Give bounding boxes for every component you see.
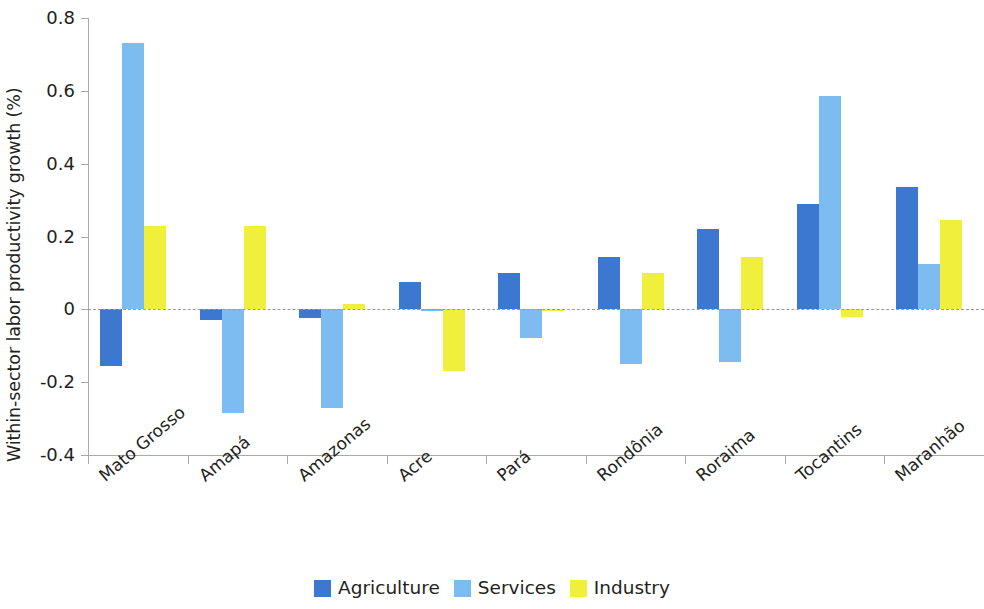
y-tick-label: -0.2 (40, 370, 75, 394)
zero-reference-line (88, 309, 984, 310)
bar (620, 309, 642, 364)
bar (918, 264, 940, 310)
legend: AgricultureServicesIndustry (0, 577, 984, 599)
y-tick: -0.2 (81, 382, 88, 383)
y-tick: 0 (81, 309, 88, 310)
legend-item[interactable]: Services (454, 577, 556, 599)
bar (719, 309, 741, 362)
bar-chart: Within-sector labor productivity growth … (0, 0, 984, 609)
y-tick-label: 0.2 (46, 225, 75, 249)
y-tick: 0.2 (81, 237, 88, 238)
bar (299, 309, 321, 318)
bar (399, 282, 421, 309)
x-tick (88, 455, 89, 464)
bar (520, 309, 542, 338)
legend-swatch-icon (570, 580, 587, 597)
bar (797, 204, 819, 310)
bar (200, 309, 222, 320)
legend-item[interactable]: Agriculture (314, 577, 440, 599)
legend-swatch-icon (454, 580, 471, 597)
y-tick: 0.6 (81, 91, 88, 92)
bar (741, 257, 763, 310)
plot-area: 0.80.60.40.20-0.2-0.4 (88, 18, 984, 457)
bar (443, 309, 465, 371)
y-tick-label: 0.4 (46, 152, 75, 176)
x-tick (884, 455, 885, 464)
x-tick (586, 455, 587, 464)
bar (222, 309, 244, 413)
y-tick-label: -0.4 (40, 443, 75, 467)
legend-swatch-icon (314, 580, 331, 597)
y-tick-label: 0.8 (46, 6, 75, 30)
bar (642, 273, 664, 309)
y-tick-label: 0 (64, 297, 75, 321)
x-tick (785, 455, 786, 464)
y-tick: 0.4 (81, 164, 88, 165)
bar (697, 229, 719, 309)
bar (819, 96, 841, 309)
bar (144, 226, 166, 310)
y-tick-label: 0.6 (46, 79, 75, 103)
x-tick (188, 455, 189, 464)
legend-label: Industry (594, 577, 670, 599)
legend-item[interactable]: Industry (570, 577, 670, 599)
x-tick (287, 455, 288, 464)
bar (498, 273, 520, 309)
bar (244, 226, 266, 310)
bar (598, 257, 620, 310)
legend-label: Agriculture (338, 577, 440, 599)
bar (100, 309, 122, 365)
y-axis-title: Within-sector labor productivity growth … (0, 2, 28, 462)
bar (896, 187, 918, 309)
y-axis-line (88, 18, 89, 457)
bar (122, 43, 144, 309)
legend-label: Services (478, 577, 556, 599)
bar (940, 220, 962, 309)
bar (841, 309, 863, 316)
x-tick (486, 455, 487, 464)
x-tick (387, 455, 388, 464)
y-tick: -0.4 (81, 455, 88, 456)
x-tick (685, 455, 686, 464)
bar (321, 309, 343, 407)
y-tick: 0.8 (81, 18, 88, 19)
